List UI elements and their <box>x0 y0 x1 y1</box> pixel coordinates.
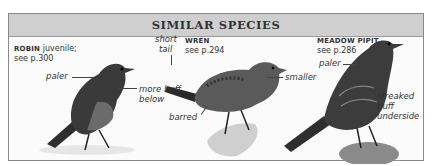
wren-label: WREN see p.294 <box>185 36 224 56</box>
wren-note-tail: tail <box>159 44 172 54</box>
wren-page-ref: see p.294 <box>185 46 224 55</box>
robin-note-below: below <box>139 94 164 104</box>
meadow-pipit-label: MEADOW PIPIT see p.286 <box>317 36 379 56</box>
robin-suffix: juvenile; <box>40 44 77 53</box>
wren-illustration <box>157 46 287 161</box>
robin-note-paler: paler <box>46 71 68 81</box>
meadow-pipit-page-ref: see p.286 <box>317 46 356 55</box>
wren-pointer-tail <box>171 55 172 65</box>
wren-note-smaller: smaller <box>285 72 316 82</box>
meadow-pipit-note-buff: buff <box>377 101 394 111</box>
similar-species-panel: SIMILAR SPECIES ROBIN juvenile; see p.30… <box>8 13 424 161</box>
robin-note-more-buff: more buff <box>139 84 181 94</box>
wren-note-short: short <box>155 34 177 44</box>
meadow-pipit-name: MEADOW PIPIT <box>317 37 379 45</box>
meadow-pipit-note-underside: underside <box>377 111 419 121</box>
meadow-pipit-note-paler: paler <box>319 58 341 68</box>
robin-pointer-paler <box>72 77 94 78</box>
robin-page-ref: see p.300 <box>14 54 53 63</box>
robin-name: ROBIN <box>14 45 40 53</box>
meadow-pipit-note-streaked: streaked <box>377 91 414 101</box>
panel-header: SIMILAR SPECIES <box>9 14 423 37</box>
wren-pointer-smaller <box>267 77 283 78</box>
robin-label: ROBIN juvenile; see p.300 <box>14 44 77 64</box>
panel-title: SIMILAR SPECIES <box>152 18 281 32</box>
wren-name: WREN <box>185 37 210 45</box>
meadow-pipit-pointer-paler <box>343 64 355 65</box>
robin-pointer-more-buff <box>119 88 137 89</box>
wren-note-barred: barred <box>169 112 197 122</box>
